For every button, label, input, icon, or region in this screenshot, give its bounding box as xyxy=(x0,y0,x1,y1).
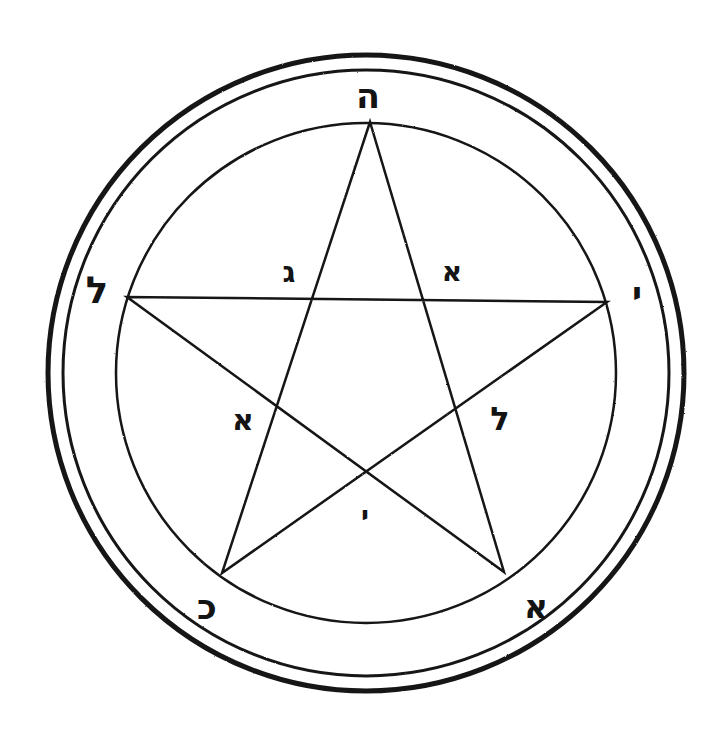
letter-inner-mid-right-lamed: ל xyxy=(490,403,509,435)
letter-inner-upper-left-gimel: ג xyxy=(283,258,296,287)
letter-outer-bottom-left-kaf: כ xyxy=(197,590,217,625)
letter-inner-mid-left-alef: א xyxy=(232,405,254,435)
outer-ring-outer-circle xyxy=(48,55,684,691)
outer-ring-inner-circle xyxy=(63,70,669,676)
letter-outer-left-lamed: ל xyxy=(86,272,108,309)
pentacle-figure: ה ל י כ א ג א א ל י xyxy=(0,0,726,733)
inner-circle xyxy=(116,123,616,623)
letter-outer-bottom-right-alef: א xyxy=(524,590,548,623)
letter-inner-bottom-center-yod: י xyxy=(361,502,369,529)
letter-outer-right-yod: י xyxy=(632,277,642,311)
letter-inner-upper-right-alef: א xyxy=(442,258,462,286)
letter-outer-top-he: ה xyxy=(356,79,380,114)
